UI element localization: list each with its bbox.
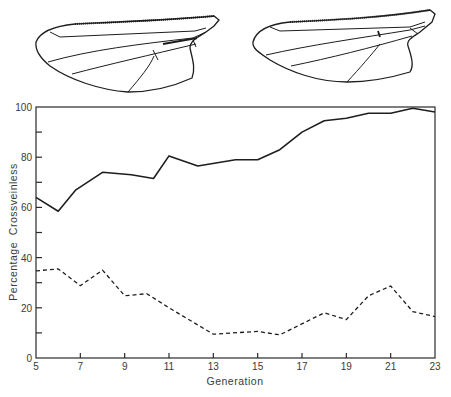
plot-frame (36, 107, 435, 358)
x-tick-label: 15 (252, 361, 264, 372)
x-tick-label: 11 (164, 361, 175, 372)
x-tick-label: 7 (78, 361, 84, 372)
figure: 020406080100 57911131517192123 Generatio… (0, 0, 451, 397)
x-axis-title: Generation (207, 375, 264, 387)
y-tick-label: 0 (26, 353, 32, 364)
wing-right-illustration (253, 10, 435, 82)
y-tick-label: 100 (15, 102, 32, 113)
x-tick-label: 5 (33, 361, 39, 372)
x-tick-label: 23 (429, 361, 441, 372)
data-series (36, 108, 435, 335)
y-tick-label: 80 (21, 152, 33, 163)
y-tick-label: 40 (21, 253, 33, 264)
dashed-series-line (36, 269, 435, 335)
y-axis-ticks: 020406080100 (15, 102, 42, 364)
solid-series-line (36, 108, 435, 211)
y-tick-label: 60 (21, 202, 33, 213)
wing-left-illustration (36, 16, 219, 92)
x-tick-label: 19 (341, 361, 353, 372)
y-axis-title: Percentage Crossveinless (7, 163, 19, 300)
x-axis-ticks: 57911131517192123 (33, 353, 441, 372)
line-chart: 020406080100 57911131517192123 Generatio… (7, 102, 441, 387)
x-tick-label: 17 (296, 361, 308, 372)
x-tick-label: 9 (122, 361, 128, 372)
x-tick-label: 13 (208, 361, 220, 372)
y-tick-label: 20 (21, 303, 33, 314)
x-tick-label: 21 (385, 361, 397, 372)
